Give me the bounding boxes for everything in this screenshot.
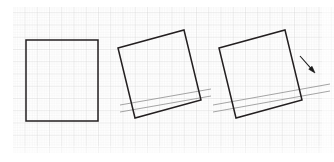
grid-fade-right: [322, 7, 334, 153]
graph-paper-grid: [13, 7, 334, 162]
figure-canvas: Square rotation sequence on graph paper: [0, 0, 334, 162]
figure-svg: Square rotation sequence on graph paper: [0, 0, 334, 162]
grid-area: [13, 7, 334, 153]
grid-fade-bottom: [13, 146, 334, 162]
